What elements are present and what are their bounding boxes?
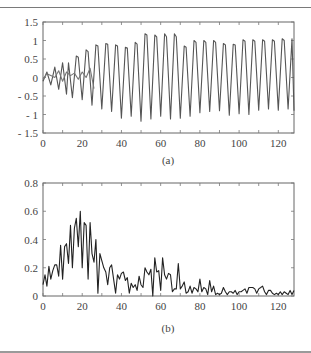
y-tick-label: - 0.5: [18, 90, 39, 102]
x-tick-label: 0: [40, 300, 46, 312]
x-tick-label: 20: [77, 300, 89, 312]
y-tick-label: 0.2: [24, 262, 38, 274]
x-tick-label: 20: [77, 137, 89, 149]
x-tick-label: 80: [194, 300, 206, 312]
chart-a: 0204060801001201.510.50- 0.5- 1- 1.5: [18, 16, 294, 149]
y-tick-label: 1: [33, 35, 39, 47]
series-line-spectrum: [43, 211, 294, 296]
x-tick-label: 100: [231, 300, 248, 312]
x-tick-label: 0: [40, 137, 46, 149]
x-tick-label: 120: [270, 300, 287, 312]
series-line-signal-1: [43, 34, 294, 121]
x-tick-label: 60: [155, 300, 167, 312]
y-tick-label: 0: [33, 290, 39, 302]
y-tick-label: 0.5: [24, 53, 38, 65]
figure-canvas: 0204060801001201.510.50- 0.5- 1- 1.5 020…: [0, 0, 311, 353]
y-tick-label: - 1.5: [18, 127, 39, 139]
chart-b: 0204060801001200.80.60.40.20: [24, 177, 294, 312]
y-tick-label: 0.6: [24, 205, 38, 217]
y-tick-label: 0.8: [24, 177, 38, 189]
y-tick-label: - 1: [26, 109, 38, 121]
plot-frame: [43, 183, 294, 296]
caption-a: (a): [148, 154, 188, 166]
x-tick-label: 120: [270, 137, 287, 149]
y-tick-label: 0: [33, 72, 39, 84]
x-tick-label: 80: [194, 137, 206, 149]
y-tick-label: 1.5: [24, 16, 38, 28]
x-tick-label: 40: [116, 300, 128, 312]
x-tick-label: 100: [231, 137, 248, 149]
caption-b: (b): [148, 322, 188, 334]
y-tick-label: 0.4: [24, 234, 38, 246]
x-tick-label: 40: [116, 137, 128, 149]
x-tick-label: 60: [155, 137, 167, 149]
